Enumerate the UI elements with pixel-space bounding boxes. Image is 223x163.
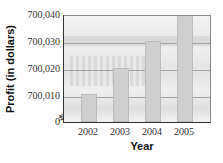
bar-2002 <box>81 94 97 122</box>
y-tick-700040: 700,040 <box>28 10 61 20</box>
bar-2005 <box>177 15 193 122</box>
bar-2003 <box>113 68 129 122</box>
y-tick-700030: 700,030 <box>28 37 61 47</box>
y-tick-700020: 700,020 <box>28 64 61 74</box>
x-tick-2003: 2003 <box>105 126 135 137</box>
y-axis-label-text: Profit (in dollars) <box>4 25 16 113</box>
y-axis-label: Profit (in dollars) <box>2 15 18 123</box>
x-axis-label: Year <box>122 140 162 152</box>
y-tick-700010: 700,010 <box>28 91 61 101</box>
x-tick-2002: 2002 <box>73 126 103 137</box>
bar-2004 <box>145 41 161 122</box>
plot-area <box>63 15 211 123</box>
x-tick-2005: 2005 <box>169 126 199 137</box>
x-tick-2004: 2004 <box>137 126 167 137</box>
